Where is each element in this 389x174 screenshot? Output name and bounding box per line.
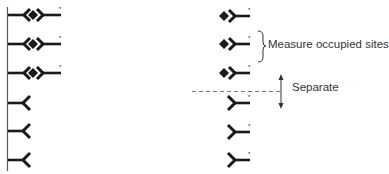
- measure-occupied-sites-label: Measure occupied sites: [268, 38, 389, 50]
- empty-receptor-icon: [8, 96, 30, 110]
- separate-label: Separate: [292, 81, 339, 93]
- bound-complex-icon: *: [219, 35, 251, 50]
- right-free-ligands: * * *: [228, 94, 251, 167]
- free-ligand-icon: *: [228, 123, 251, 139]
- bound-complex-icon: *: [219, 64, 251, 79]
- svg-text:*: *: [248, 123, 251, 129]
- right-bound-complexes: * * *: [219, 7, 251, 79]
- free-ligand-icon: *: [228, 94, 251, 110]
- svg-text:*: *: [248, 64, 251, 70]
- svg-text:*: *: [248, 151, 251, 157]
- svg-text:*: *: [248, 94, 251, 100]
- empty-receptor-icon: [8, 153, 30, 167]
- left-occupied-complexes: * * *: [8, 6, 62, 79]
- receptor-ligand-complex-icon: *: [8, 6, 62, 21]
- svg-text:*: *: [248, 35, 251, 41]
- left-unoccupied-receptors: [8, 96, 30, 167]
- svg-text:*: *: [59, 35, 62, 41]
- empty-receptor-icon: [8, 124, 30, 138]
- free-ligand-icon: *: [228, 151, 251, 167]
- svg-text:*: *: [248, 7, 251, 13]
- receptor-ligand-complex-icon: *: [8, 64, 62, 79]
- svg-text:*: *: [59, 6, 62, 12]
- bound-complex-icon: *: [219, 7, 251, 22]
- receptor-ligand-complex-icon: *: [8, 35, 62, 50]
- curly-brace-icon: [258, 31, 266, 62]
- svg-text:*: *: [59, 64, 62, 70]
